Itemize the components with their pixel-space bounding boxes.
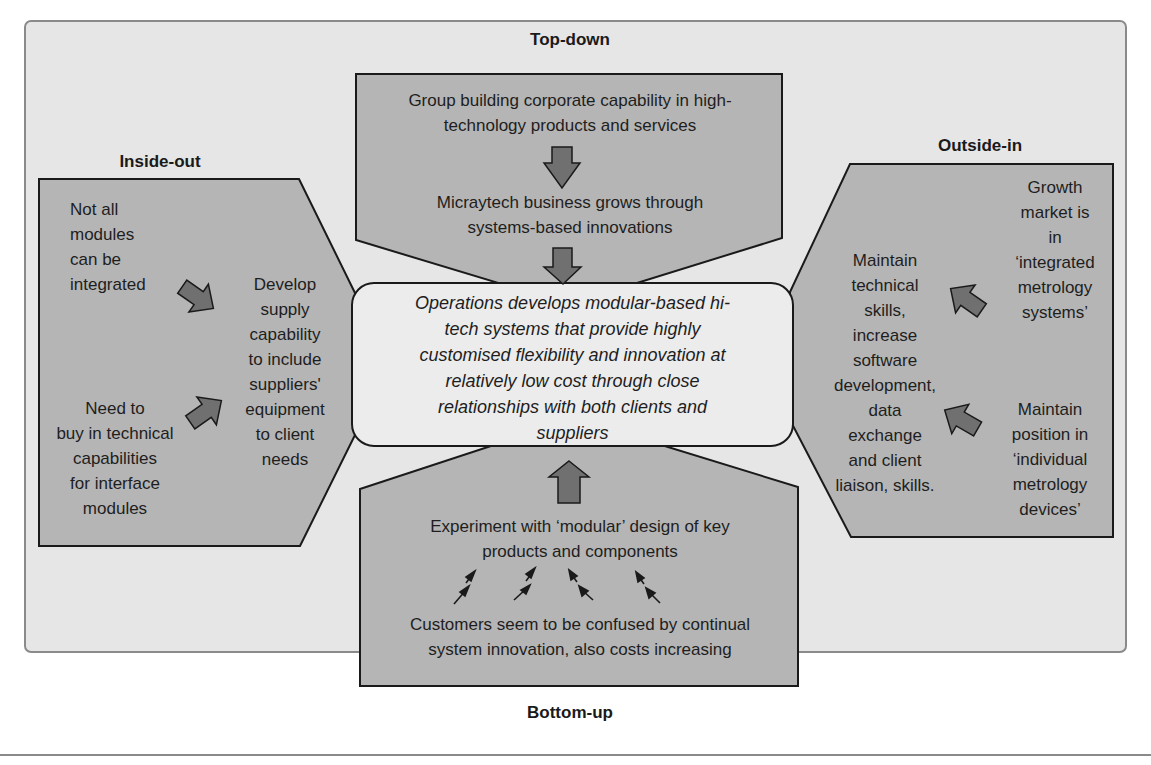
- inside-out-item-2: Need to buy in technical capabilities fo…: [40, 396, 190, 521]
- bottom-up-text-1: Experiment with ‘modular’ design of key …: [362, 514, 798, 564]
- inside-out-result: Develop supply capability to include sup…: [233, 272, 337, 472]
- top-down-text-2: Micraytech business grows through system…: [360, 190, 780, 240]
- top-down-text-1: Group building corporate capability in h…: [360, 88, 780, 138]
- label-bottom-up: Bottom-up: [480, 703, 660, 723]
- label-inside-out: Inside-out: [90, 152, 230, 172]
- outside-in-item-1: Growth market is in ‘integrated metrolog…: [1000, 175, 1110, 325]
- inside-out-item-1: Not all modules can be integrated: [70, 197, 180, 297]
- outside-in-result: Maintain technical skills, increase soft…: [820, 248, 950, 498]
- central-statement: Operations develops modular-based hi- te…: [356, 290, 789, 446]
- bottom-up-text-2: Customers seem to be confused by continu…: [362, 612, 798, 662]
- outside-in-item-2: Maintain position in ‘individual metrolo…: [990, 397, 1110, 522]
- label-top-down: Top-down: [480, 30, 660, 50]
- label-outside-in: Outside-in: [890, 136, 1070, 156]
